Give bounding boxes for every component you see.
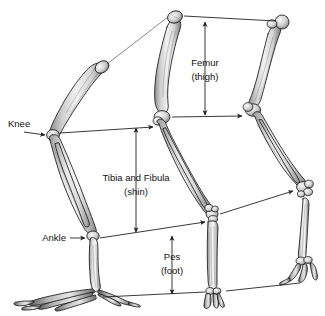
figure-canvas: Knee Ankle Femur (thigh) Tibia and Fibul…	[0, 0, 325, 316]
knee-label: Knee	[8, 118, 30, 129]
tibia-label: Tibia and Fibula	[102, 172, 170, 183]
pes-label: Pes	[164, 251, 181, 262]
pes-sublabel: (foot)	[161, 265, 183, 276]
middle-limb-toes	[204, 288, 224, 309]
middle-limb-metatarsus	[207, 221, 218, 289]
limb-homology-figure: Knee Ankle Femur (thigh) Tibia and Fibul…	[0, 0, 325, 316]
ankle-label: Ankle	[42, 232, 66, 243]
right-limb-hip	[275, 15, 289, 29]
femur-sublabel: (thigh)	[192, 71, 219, 82]
femur-label: Femur	[191, 57, 218, 68]
right-limb-ankle-joint	[297, 180, 314, 197]
tibia-sublabel: (shin)	[124, 186, 148, 197]
